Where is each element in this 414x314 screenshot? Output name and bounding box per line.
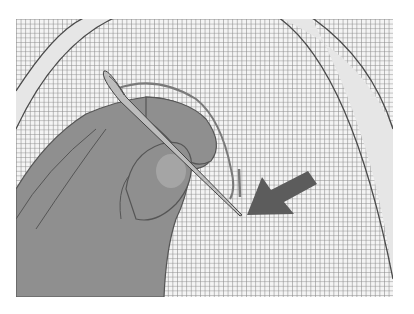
illustration-panel: [16, 19, 393, 297]
thread-tail: [239, 169, 240, 197]
needle-illustration: [16, 19, 393, 297]
